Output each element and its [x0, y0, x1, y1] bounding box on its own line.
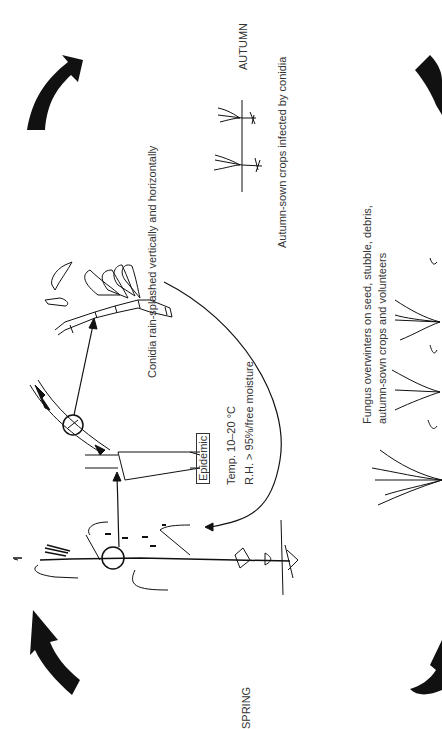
conidia-splash-label: Conidia rain-splashed vertically and hor…	[146, 146, 159, 378]
cycle-arrow-bottom-left-icon	[30, 610, 80, 695]
epidemic-label: Epidemic	[197, 433, 210, 484]
autumn-season-label: AUTUMN	[237, 23, 250, 70]
splash-return-arrow-icon	[164, 282, 281, 531]
humidity-label: R.H. > 95%/free moisture	[243, 361, 256, 485]
cycle-arrow-top-right-icon	[415, 55, 442, 115]
temperature-label: Temp. 10–20 °C	[225, 406, 238, 485]
cycle-arrow-top-left-icon	[27, 55, 83, 130]
arrow-to-conidia-icon	[74, 318, 97, 415]
overwinter-label-line1: Fungus overwinters on seed, stubble, deb…	[361, 205, 374, 424]
spring-plant-illustration	[13, 520, 298, 595]
disease-cycle-diagram: Conidia rain-splashed vertically and hor…	[0, 0, 442, 729]
overwinter-label-line2: autumn-sown crops and volunteers	[376, 253, 389, 424]
autumn-infection-label: Autumn-sown crops infected by conidia	[276, 57, 289, 248]
autumn-seedlings-illustration	[214, 100, 262, 192]
epidemic-box: Epidemic	[196, 433, 210, 484]
spring-season-label: SPRING	[240, 687, 253, 729]
stem-lesion-illustration	[30, 380, 200, 480]
arrow-to-stem-detail-icon	[113, 472, 121, 547]
cycle-arrow-bottom-right-icon	[410, 640, 442, 694]
